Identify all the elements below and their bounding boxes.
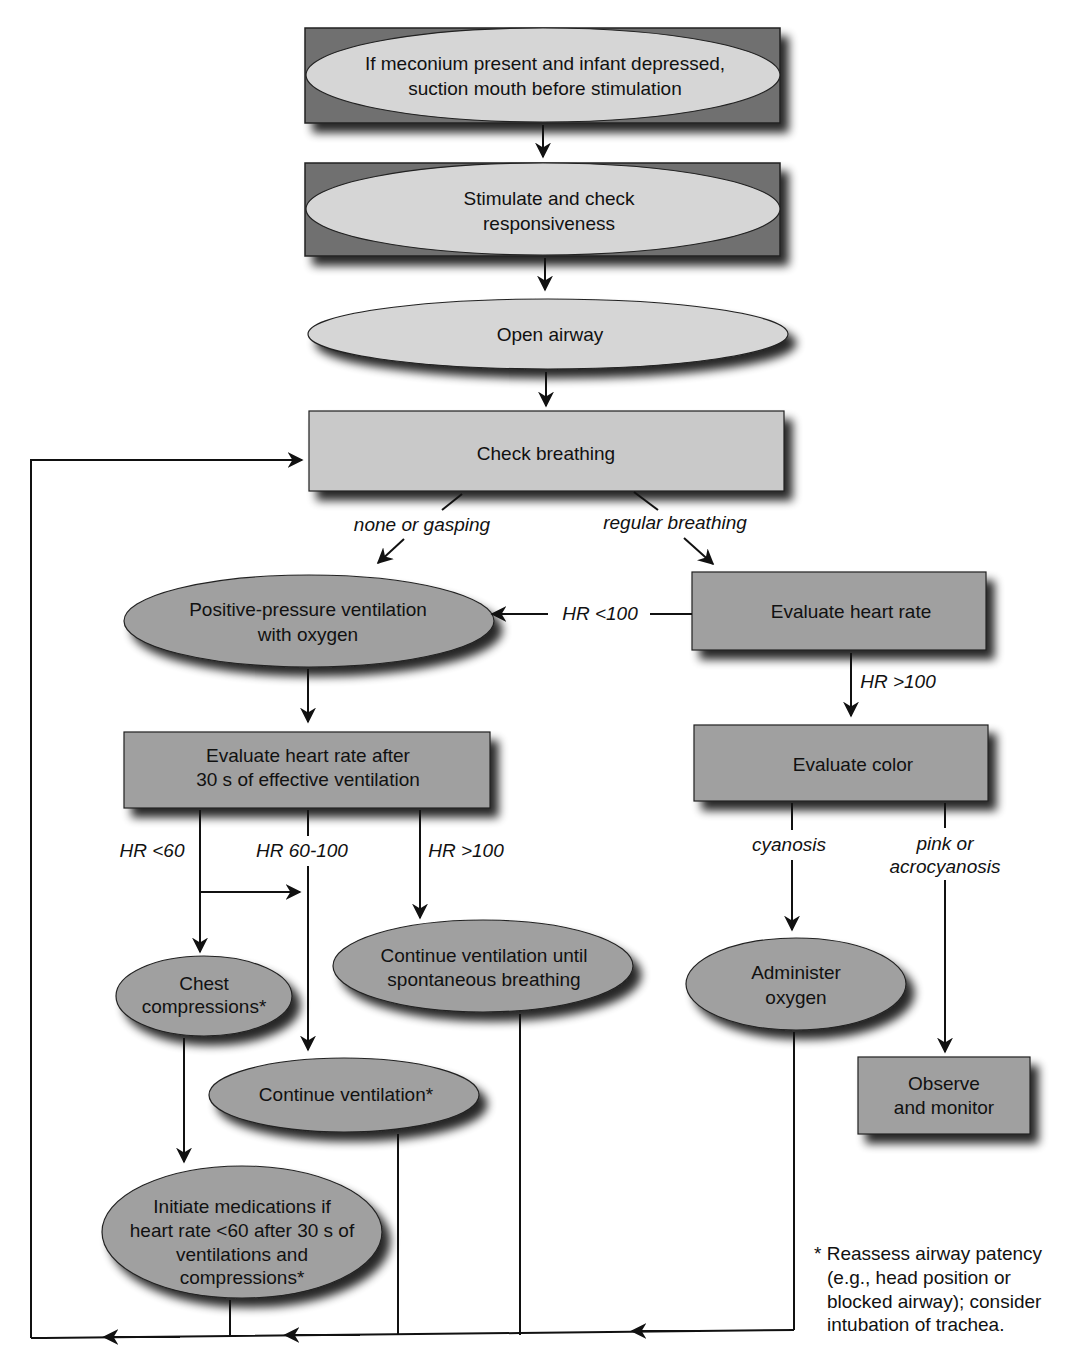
label-hr-gt-100-right: HR >100 <box>860 671 936 692</box>
node-chest-line-1: Chest <box>179 973 229 994</box>
label-pink-line-1: pink or <box>915 833 974 854</box>
node-ppv-line-2: with oxygen <box>257 624 358 645</box>
node-open-airway: Open airway <box>308 299 788 369</box>
node-continue-ventilation: Continue ventilation* <box>209 1058 479 1132</box>
arrow-to-ppv <box>378 539 404 563</box>
arrow-to-eval-hr <box>684 538 713 564</box>
footnote: * Reassess airway patency (e.g., head po… <box>814 1243 1043 1335</box>
node-eval-hr: Evaluate heart rate <box>692 572 986 650</box>
label-hr-60-100: HR 60-100 <box>256 840 348 861</box>
label-none-or-gasping: none or gasping <box>354 514 491 535</box>
label-hr-lt-100: HR <100 <box>562 603 638 624</box>
branch-regular-top <box>634 492 658 510</box>
node-stimulate: Stimulate and check responsiveness <box>305 163 780 256</box>
node-continue-ventilation-label: Continue ventilation* <box>259 1084 434 1105</box>
node-administer-oxygen: Administer oxygen <box>686 938 906 1030</box>
node-continue-until-line-2: spontaneous breathing <box>387 969 580 990</box>
node-meconium-line-1: If meconium present and infant depressed… <box>365 53 725 74</box>
node-medications-line-2: heart rate <60 after 30 s of <box>130 1220 355 1241</box>
node-eval-color: Evaluate color <box>694 725 988 801</box>
footnote-line-2: (e.g., head position or <box>827 1267 1011 1288</box>
footnote-line-3: blocked airway); consider <box>827 1291 1042 1312</box>
label-cyanosis: cyanosis <box>752 834 826 855</box>
node-open-airway-label: Open airway <box>497 324 604 345</box>
footnote-line-4: intubation of trachea. <box>827 1314 1004 1335</box>
node-observe-line-2: and monitor <box>894 1097 995 1118</box>
node-administer-line-1: Administer <box>751 962 841 983</box>
node-meconium: If meconium present and infant depressed… <box>305 28 780 123</box>
node-check-breathing: Check breathing <box>309 411 784 491</box>
node-chest-compressions: Chest compressions* <box>116 956 292 1036</box>
node-observe: Observe and monitor <box>858 1057 1030 1134</box>
label-hr-gt-100-left: HR >100 <box>428 840 504 861</box>
branch-none-gasping-top <box>442 494 462 510</box>
node-meconium-line-2: suction mouth before stimulation <box>408 78 682 99</box>
node-ppv: Positive-pressure ventilation with oxyge… <box>124 575 494 667</box>
label-regular-breathing: regular breathing <box>603 512 747 533</box>
node-observe-line-1: Observe <box>908 1073 980 1094</box>
node-check-breathing-label: Check breathing <box>477 443 615 464</box>
node-ppv-line-1: Positive-pressure ventilation <box>189 599 427 620</box>
node-eval-hr-after-line-1: Evaluate heart rate after <box>206 745 411 766</box>
node-stimulate-line-1: Stimulate and check <box>463 188 635 209</box>
node-continue-until-line-1: Continue ventilation until <box>380 945 587 966</box>
node-medications-line-1: Initiate medications if <box>153 1196 331 1217</box>
node-chest-line-2: compressions* <box>142 996 267 1017</box>
node-eval-hr-after-line-2: 30 s of effective ventilation <box>196 769 420 790</box>
label-hr-lt-60: HR <60 <box>120 840 185 861</box>
node-medications: Initiate medications if heart rate <60 a… <box>102 1166 382 1298</box>
node-medications-line-4: compressions* <box>180 1267 305 1288</box>
node-stimulate-line-2: responsiveness <box>483 213 615 234</box>
node-continue-until: Continue ventilation until spontaneous b… <box>333 920 633 1012</box>
node-eval-color-label: Evaluate color <box>793 754 914 775</box>
label-pink-line-2: acrocyanosis <box>890 856 1001 877</box>
node-eval-hr-label: Evaluate heart rate <box>771 601 932 622</box>
node-medications-line-3: ventilations and <box>176 1244 308 1265</box>
node-eval-hr-after: Evaluate heart rate after 30 s of effect… <box>124 732 490 808</box>
footnote-line-1: * Reassess airway patency <box>814 1243 1043 1264</box>
node-administer-line-2: oxygen <box>765 987 826 1008</box>
resuscitation-flowchart: If meconium present and infant depressed… <box>0 0 1091 1353</box>
